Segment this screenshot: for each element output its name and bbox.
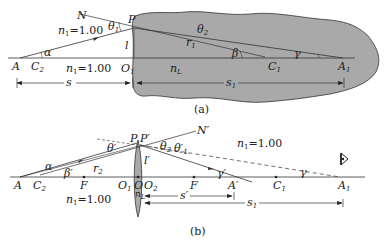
label-r2: r2	[93, 162, 103, 176]
label-alpha: α	[45, 160, 53, 173]
label-theta-prime: θ′	[107, 142, 117, 155]
label-F-right: F	[189, 179, 198, 192]
label-P-prime: P′	[139, 132, 150, 145]
label-A1: A1	[337, 179, 350, 193]
caption-a: (a)	[194, 103, 209, 116]
panel-b: N′ P P′ θ′ θ2 θ′1 n1=1.00 α β′ r2 l′ γ′ …	[10, 124, 365, 238]
lens-refraction-diagram: N P θ1 n1=1.00 α l θ2 r1 β γ A C2 n1=1.0…	[0, 0, 388, 245]
label-P: P	[127, 13, 136, 26]
label-N: N	[76, 9, 87, 22]
label-n1-top: n1=1.00	[58, 24, 103, 38]
label-gamma-prime: γ′	[217, 167, 227, 180]
label-N-prime: N′	[196, 124, 210, 137]
label-C1: C1	[273, 179, 286, 193]
label-theta1: θ1	[108, 20, 119, 34]
label-l-prime: l′	[144, 154, 151, 167]
label-F-left: F	[79, 179, 88, 192]
label-beta-prime: β′	[63, 167, 73, 180]
label-A: A	[13, 179, 22, 192]
panel-a: N P θ1 n1=1.00 α l θ2 r1 β γ A C2 n1=1.0…	[8, 9, 379, 116]
label-alpha: α	[44, 46, 52, 59]
label-A-prime: A′	[227, 179, 239, 192]
label-A: A	[11, 60, 20, 73]
label-C2: C2	[31, 60, 44, 74]
label-n1-top: n1=1.00	[237, 137, 282, 151]
label-theta2: θ2	[160, 140, 172, 154]
label-gamma: γ	[300, 166, 307, 179]
label-P: P	[129, 132, 138, 145]
label-C2: C2	[33, 179, 46, 193]
label-gamma: γ	[294, 47, 301, 60]
label-s-prime: s′	[180, 189, 189, 202]
label-theta1-prime: θ′1	[174, 142, 188, 156]
eye-icon	[341, 153, 348, 165]
label-O2: O2	[144, 179, 158, 193]
caption-b: (b)	[190, 225, 206, 238]
label-beta: β	[231, 47, 238, 60]
glass-medium-shape	[132, 12, 378, 103]
label-O1: O1	[118, 179, 132, 193]
label-s: s	[66, 76, 72, 89]
label-O1: O1	[121, 62, 135, 76]
label-n1-axis: n1=1.00	[66, 193, 111, 207]
label-l: l	[125, 39, 129, 52]
label-n1-axis: n1=1.00	[66, 62, 111, 76]
